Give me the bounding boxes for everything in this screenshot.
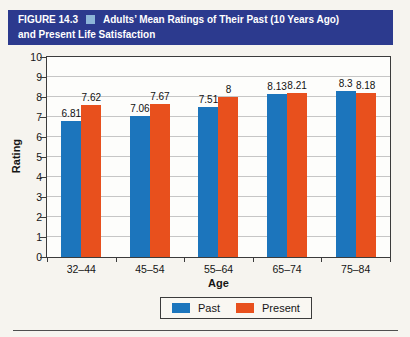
x-axis-tick [253,258,254,262]
x-axis-tick [184,258,185,262]
bar-present-32–44: 7.62 [81,105,101,257]
bottom-rule [13,330,398,331]
bar-past-75–84: 8.3 [336,91,356,257]
y-axis-tick-label: 5 [20,150,42,164]
figure-panel: FIGURE 14.3 Adults’ Mean Ratings of Thei… [0,0,410,337]
x-axis-label: 32–44 [47,263,116,275]
bar-group-65–74: 8.138.21 [253,93,322,257]
x-axis-tick [47,258,48,262]
y-axis-tick-label: 6 [20,130,42,144]
bar-present-45–54: 7.67 [150,104,170,257]
x-axis-title: Age [47,277,390,289]
bar-present-55–64: 8 [218,97,238,257]
bar-value-label: 8 [226,84,232,95]
bar-group-45–54: 7.067.67 [116,104,185,257]
x-axis-label: 45–54 [116,263,185,275]
y-axis-tick-label: 7 [20,110,42,124]
x-axis-label: 65–74 [253,263,322,275]
x-axis-labels: 32–44 45–54 55–64 65–74 75–84 [47,263,390,275]
x-axis-tick [116,258,117,262]
x-axis-tick [321,258,322,262]
plot-area: 6.817.627.067.677.5188.138.218.38.18 [46,56,391,258]
legend-swatch-present [236,303,254,313]
legend-label-past: Past [198,302,220,314]
legend: Past Present [160,297,312,319]
y-axis-tick-label: 10 [20,50,42,64]
bar-chart: Rating 012345678910 6.817.627.067.677.51… [0,0,410,337]
bar-past-55–64: 7.51 [198,107,218,257]
bar-group-55–64: 7.518 [184,97,253,257]
bars-layer: 6.817.627.067.677.5188.138.218.38.18 [47,57,390,257]
bar-value-label: 8.13 [267,81,286,92]
bar-group-75–84: 8.38.18 [321,91,390,257]
y-axis-tick-label: 0 [20,250,42,264]
bar-value-label: 8.3 [339,78,353,89]
bar-present-65–74: 8.21 [287,93,307,257]
x-axis-label: 75–84 [321,263,390,275]
bar-value-label: 6.81 [62,108,81,119]
bar-value-label: 8.21 [287,80,306,91]
x-axis-tick [390,258,391,262]
bar-group-32–44: 6.817.62 [47,105,116,257]
legend-swatch-past [172,303,190,313]
bar-value-label: 7.62 [82,92,101,103]
y-axis-tick-label: 2 [20,210,42,224]
y-axis-tick-label: 3 [20,190,42,204]
bar-value-label: 8.18 [356,80,375,91]
y-axis-tick-label: 8 [20,90,42,104]
bar-value-label: 7.51 [199,94,218,105]
bar-past-45–54: 7.06 [130,116,150,257]
y-axis-tick-label: 1 [20,230,42,244]
y-axis-tick-label: 4 [20,170,42,184]
bar-value-label: 7.06 [130,103,149,114]
bar-past-65–74: 8.13 [267,94,287,257]
bar-value-label: 7.67 [150,91,169,102]
bar-past-32–44: 6.81 [61,121,81,257]
legend-label-present: Present [262,302,300,314]
bar-present-75–84: 8.18 [356,93,376,257]
x-axis-label: 55–64 [184,263,253,275]
y-axis-tick-label: 9 [20,70,42,84]
